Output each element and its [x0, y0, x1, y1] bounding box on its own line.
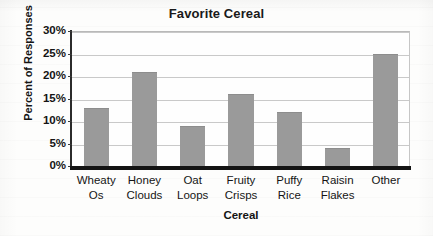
y-axis-tick-mark [68, 121, 72, 122]
gridline [72, 55, 409, 56]
x-axis-tick-label-line: Wheaty [72, 173, 120, 188]
x-axis-tick-label: OatLoops [169, 173, 217, 202]
y-axis-tick-mark [68, 144, 72, 145]
bar [325, 148, 350, 166]
x-axis-tick-label: RaisinFlakes [313, 173, 361, 202]
x-axis-tick-label-line: Honey [120, 173, 168, 188]
x-axis-tick-label-line: Oat [169, 173, 217, 188]
x-axis-line [70, 166, 411, 170]
x-axis-tick-label-line: Rice [265, 188, 313, 203]
x-axis-tick-label: FruityCrisps [217, 173, 265, 202]
x-axis-tick-label: PuffyRice [265, 173, 313, 202]
y-axis-tick-label: 25% [6, 48, 66, 60]
x-axis-tick-label-line: Loops [169, 188, 217, 203]
y-axis-tick-label: 5% [6, 138, 66, 150]
y-axis-tick-mark [68, 76, 72, 77]
y-axis-tick-mark [68, 31, 72, 32]
y-axis-tick-label: 10% [6, 115, 66, 127]
bar [373, 54, 398, 167]
y-axis-tick-mark [68, 99, 72, 100]
x-axis-tick-label: Other [362, 173, 410, 188]
x-axis-tick-label-line: Other [362, 173, 410, 188]
chart-title: Favorite Cereal [0, 6, 433, 21]
y-axis-tick-label: 0% [6, 160, 66, 172]
bar [180, 126, 205, 167]
x-axis-tick-label-line: Clouds [120, 188, 168, 203]
x-axis-tick-label-line: Fruity [217, 173, 265, 188]
y-axis-tick-mark [68, 54, 72, 55]
gridline [72, 77, 409, 78]
x-axis-tick-label-line: Crisps [217, 188, 265, 203]
bar [132, 72, 157, 167]
plot-area [72, 31, 410, 166]
bar [84, 108, 109, 167]
y-axis-tick-label: 30% [6, 25, 66, 37]
bar-chart-figure: Favorite Cereal Percent of Responses 0%5… [0, 0, 433, 236]
x-axis-title: Cereal [72, 209, 410, 221]
x-axis-tick-label: WheatyOs [72, 173, 120, 202]
x-axis-tick-label: HoneyClouds [120, 173, 168, 202]
x-axis-tick-label-line: Raisin [313, 173, 361, 188]
y-axis-tick-label: 20% [6, 70, 66, 82]
x-axis-tick-label-line: Flakes [313, 188, 361, 203]
bar [228, 94, 253, 166]
gridline [72, 32, 409, 33]
bar [277, 112, 302, 166]
y-axis-tick-label: 15% [6, 93, 66, 105]
x-axis-tick-label-line: Os [72, 188, 120, 203]
x-axis-tick-label-line: Puffy [265, 173, 313, 188]
